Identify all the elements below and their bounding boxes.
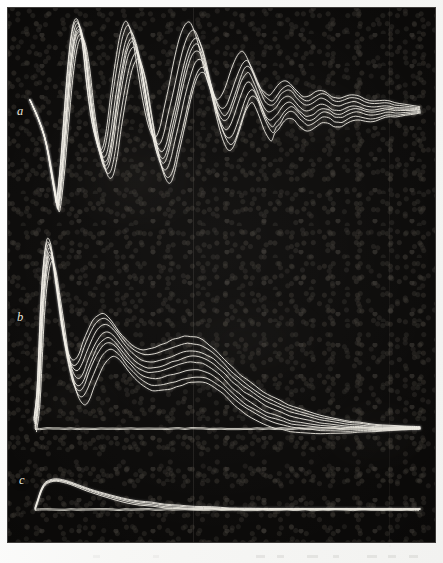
panel-label-c: c [19,473,25,488]
trace-sweep-glow [34,242,420,427]
trace-sweep-glow [36,258,420,432]
panel-label-a: a [17,104,23,119]
trace-sweep [30,38,420,212]
trace-sweep [36,258,420,432]
trace-sweep-glow [35,481,420,510]
trace-sweep [35,255,420,429]
panel-label-b: b [17,310,23,325]
trace-sweep [35,480,420,509]
trace-sweep [35,481,420,510]
trace-panel-a [30,19,420,212]
trace-sweep-glow [35,255,420,429]
trace-sweep [34,245,420,428]
trace-sweep-glow [34,245,420,428]
page-bleed-artifacts [8,548,435,560]
trace-panel-b [34,238,420,434]
trace-sweep [34,242,420,427]
trace-baselines [35,428,419,511]
trace-sweep-glow [35,480,420,509]
figure-root: a b c [0,0,443,563]
trace-panel-c [35,479,420,510]
oscilloscope-traces [0,0,443,563]
baseline-c-secondary [35,510,419,511]
